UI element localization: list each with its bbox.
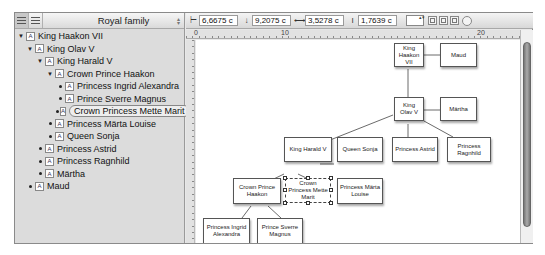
tree-item-princess-astrid[interactable]: A Princess Astrid xyxy=(15,143,184,156)
node-martha[interactable]: Märtha xyxy=(440,97,477,121)
tree-item-label: King Olav V xyxy=(47,44,95,54)
resize-handle[interactable] xyxy=(329,188,333,192)
y-position-field[interactable]: 9,2075 c xyxy=(252,15,291,26)
document-title[interactable]: Royal family xyxy=(43,15,174,26)
vertical-scrollbar[interactable] xyxy=(520,30,533,243)
bullet-icon xyxy=(46,135,54,138)
resize-handle[interactable] xyxy=(306,201,310,205)
node-prince-sverre-magnus[interactable]: Prince Sverre Magnus xyxy=(257,218,303,243)
tree-item-label: Princess Astrid xyxy=(57,144,117,154)
title-stepper-icon[interactable]: ▴▾ xyxy=(174,17,182,25)
node-princess-astrid[interactable]: Princess Astrid xyxy=(392,137,438,162)
scrollbar-thumb[interactable] xyxy=(523,42,531,227)
node-queen-sonja[interactable]: Queen Sonja xyxy=(337,137,383,162)
node-princess-ragnhild[interactable]: Princess Ragnhild xyxy=(447,137,491,162)
x-position-field[interactable]: 6,6675 c xyxy=(199,15,238,26)
width-field[interactable]: 3,5278 c xyxy=(305,15,344,26)
tree-item-label-selected[interactable]: Crown Princess Mette Marit xyxy=(69,105,190,117)
bullet-icon xyxy=(36,147,44,150)
shape-style-circle-button[interactable] xyxy=(462,16,472,26)
tree-item-princess-ragnhild[interactable]: A Princess Ragnhild xyxy=(15,155,184,168)
node-king-olav-v[interactable]: King Olav V xyxy=(394,97,424,121)
tree-item-crown-princess-mette-marit[interactable]: A Crown Princess Mette Marit xyxy=(15,105,184,118)
shape-style-button-3[interactable] xyxy=(450,16,459,25)
node-king-harald-v[interactable]: King Harald V xyxy=(284,137,332,162)
outline-tree: ▼ A King Haakon VII ▼ A King Olav V ▼ A … xyxy=(15,29,184,193)
text-node-icon: A xyxy=(45,169,54,178)
resize-handle[interactable] xyxy=(329,176,333,180)
text-node-icon: A xyxy=(55,69,64,78)
tree-item-label: King Haakon VII xyxy=(38,31,103,41)
tree-item-label: Crown Prince Haakon xyxy=(67,69,155,79)
tree-item-prince-sverre-magnus[interactable]: A Prince Sverre Magnus xyxy=(15,93,184,106)
node-crown-prince-haakon[interactable]: Crown Prince Haakon xyxy=(233,178,281,204)
node-king-haakon-vii[interactable]: King Haakon VII xyxy=(394,43,424,67)
disclosure-triangle-icon[interactable]: ▼ xyxy=(36,58,44,64)
tree-item-label: Märtha xyxy=(57,169,85,179)
disclosure-triangle-icon[interactable]: ▼ xyxy=(26,46,34,52)
tree-item-princess-marta-louise[interactable]: A Princess Märta Louise xyxy=(15,118,184,131)
outline-view-icon xyxy=(17,17,26,25)
inspector-toolbar: ⊢ 6,6675 c ↓ 9,2075 c ⟷ 3,5278 c I 1,763… xyxy=(186,13,533,29)
text-node-icon: A xyxy=(55,132,64,141)
ruler-label: 0 xyxy=(194,29,198,36)
bullet-icon xyxy=(46,122,54,125)
tree-item-label: Princess Ragnhild xyxy=(57,156,130,166)
list-view-icon xyxy=(31,17,40,25)
tree-item-label: Prince Sverre Magnus xyxy=(77,94,166,104)
resize-handle[interactable] xyxy=(329,201,333,205)
fill-color-well[interactable] xyxy=(406,15,424,26)
y-position-icon: ↓ xyxy=(241,16,252,25)
bullet-icon xyxy=(36,172,44,175)
tree-item-queen-sonja[interactable]: A Queen Sonja xyxy=(15,130,184,143)
resize-handle[interactable] xyxy=(283,188,287,192)
tree-item-king-olav-v[interactable]: ▼ A King Olav V xyxy=(15,43,184,56)
disclosure-triangle-icon[interactable]: ▼ xyxy=(46,71,54,77)
outline-panel: Royal family ▴▾ ▼ A King Haakon VII ▼ A … xyxy=(15,13,185,243)
resize-handle[interactable] xyxy=(283,176,287,180)
resize-handle[interactable] xyxy=(306,176,310,180)
text-node-icon: A xyxy=(45,144,54,153)
tree-item-king-harald-v[interactable]: ▼ A King Harald V xyxy=(15,55,184,68)
bullet-icon xyxy=(36,160,44,163)
bullet-icon xyxy=(56,85,64,88)
vertical-ruler[interactable] xyxy=(186,40,195,243)
text-node-icon: A xyxy=(45,57,54,66)
tree-item-label: Maud xyxy=(47,181,70,191)
tree-item-label: Queen Sonja xyxy=(67,131,120,141)
tree-item-label: King Harald V xyxy=(57,56,113,66)
text-node-icon: A xyxy=(60,107,66,116)
node-maud[interactable]: Maud xyxy=(440,43,477,67)
horizontal-ruler[interactable]: 0 10 20 xyxy=(186,30,520,39)
tree-item-martha[interactable]: A Märtha xyxy=(15,168,184,181)
outline-view-button[interactable] xyxy=(15,13,29,28)
text-node-icon: A xyxy=(65,82,74,91)
bullet-icon xyxy=(56,110,59,113)
tree-item-king-haakon-vii[interactable]: ▼ A King Haakon VII xyxy=(15,30,184,43)
node-princess-ingrid-alexandra[interactable]: Princess Ingrid Alexandra xyxy=(203,218,250,243)
text-node-icon: A xyxy=(65,94,74,103)
tree-item-label: Princess Märta Louise xyxy=(67,119,156,129)
outline-header: Royal family ▴▾ xyxy=(15,13,184,29)
text-node-icon: A xyxy=(26,32,35,41)
tree-item-crown-prince-haakon[interactable]: ▼ A Crown Prince Haakon xyxy=(15,68,184,81)
disclosure-triangle-icon[interactable]: ▼ xyxy=(17,33,25,39)
diagram-canvas[interactable]: King Haakon VII Maud King Olav V Märtha … xyxy=(196,40,520,243)
height-icon: I xyxy=(347,16,358,25)
text-node-icon: A xyxy=(45,157,54,166)
tree-item-princess-ingrid-alexandra[interactable]: A Princess Ingrid Alexandra xyxy=(15,80,184,93)
ruler-label: 20 xyxy=(477,29,485,36)
list-view-button[interactable] xyxy=(29,13,43,28)
node-princess-marta-louise[interactable]: Princess Märta Louise xyxy=(337,178,383,204)
tree-item-maud[interactable]: A Maud xyxy=(15,180,184,193)
shape-style-button-2[interactable] xyxy=(439,16,448,25)
height-field[interactable]: 1,7639 c xyxy=(358,15,397,26)
x-position-icon: ⊢ xyxy=(188,16,199,25)
node-crown-princess-mette-marit[interactable]: Crown Princess Mette Marit xyxy=(285,178,331,203)
shape-style-button-1[interactable] xyxy=(428,16,437,25)
resize-handle[interactable] xyxy=(283,201,287,205)
bullet-icon xyxy=(56,97,64,100)
app-window: Royal family ▴▾ ▼ A King Haakon VII ▼ A … xyxy=(14,12,533,244)
text-node-icon: A xyxy=(35,44,44,53)
tree-item-label: Princess Ingrid Alexandra xyxy=(77,81,179,91)
